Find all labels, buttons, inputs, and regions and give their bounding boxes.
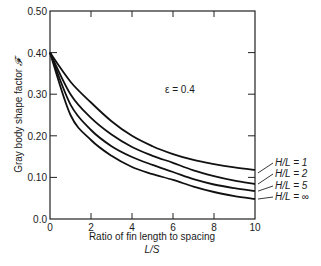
legend: H/L = 1H/L = 2H/L = 5H/L = ∞ <box>258 157 309 202</box>
legend-leader <box>258 163 273 173</box>
legend-label: H/L = 2 <box>275 168 308 179</box>
legend-label: H/L = ∞ <box>275 191 309 202</box>
legend-leader <box>258 197 273 199</box>
y-axis-title: Gray body shape factor 𝓕 <box>13 55 24 173</box>
plot-frame <box>50 11 255 219</box>
axis-ticks: 02468100.00.100.200.300.400.50 <box>28 6 261 233</box>
curves <box>50 53 255 199</box>
curve-series-3 <box>50 53 255 192</box>
y-tick-label: 0.10 <box>28 172 48 183</box>
legend-leader <box>258 174 273 184</box>
y-tick-label: 0.30 <box>28 89 48 100</box>
epsilon-annotation: ε = 0.4 <box>165 84 195 95</box>
legend-leader <box>258 186 273 191</box>
curve-series-1 <box>50 53 255 170</box>
y-tick-label: 0.0 <box>33 214 47 225</box>
y-tick-label: 0.20 <box>28 131 48 142</box>
plot-border <box>50 11 255 219</box>
x-tick-label: 10 <box>249 222 261 233</box>
y-tick-label: 0.50 <box>28 6 48 17</box>
legend-label: H/L = 1 <box>275 157 307 168</box>
y-tick-label: 0.40 <box>28 48 48 59</box>
x-axis-symbol: L/S <box>144 244 159 255</box>
chart: 02468100.00.100.200.300.400.50 H/L = 1H/… <box>0 0 321 266</box>
curve-series-4 <box>50 53 255 199</box>
legend-label: H/L = 5 <box>275 180 308 191</box>
x-axis-title: Ratio of fin length to spacing <box>89 231 215 242</box>
x-tick-label: 0 <box>47 222 53 233</box>
